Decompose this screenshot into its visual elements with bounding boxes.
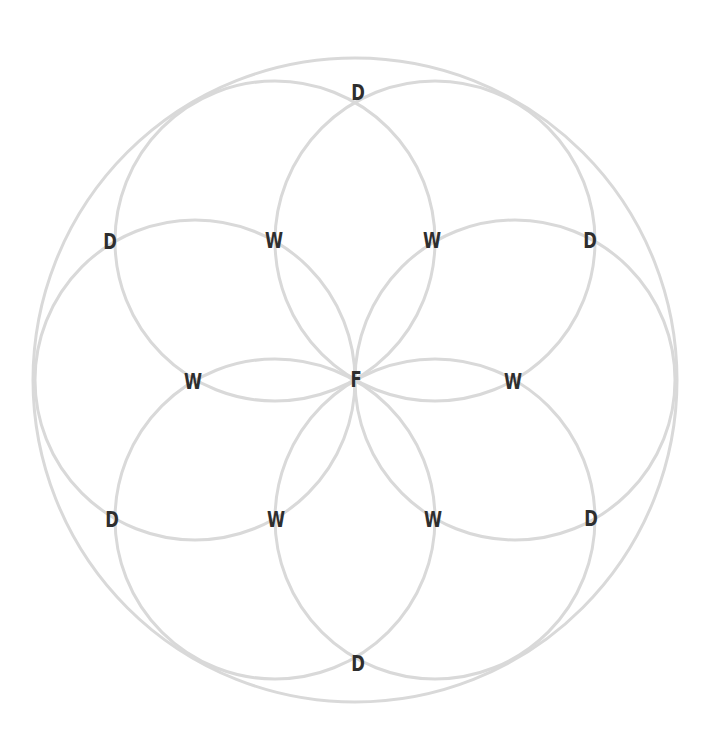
node-label-d2: D [103,232,117,253]
node-label-d1: D [351,83,365,104]
node-label-w3: W [265,231,283,252]
node-label-w2: W [504,372,522,393]
node-label-f: F [350,370,361,391]
node-label-d3: D [583,231,597,252]
node-label-w1: W [184,372,202,393]
node-label-d4: D [105,510,119,531]
node-label-w6: W [424,510,442,531]
node-label-d6: D [351,654,365,675]
node-label-w5: W [267,510,285,531]
node-label-d5: D [584,509,598,530]
node-label-w4: W [423,231,441,252]
